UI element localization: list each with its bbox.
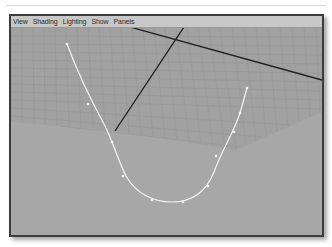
control-point [66,43,69,46]
control-point [215,155,218,158]
control-point [233,131,236,134]
control-point [182,201,185,204]
menu-panels[interactable]: Panels [114,16,135,27]
menu-view[interactable]: View [13,16,28,27]
control-point [122,175,125,178]
modeling-viewport-panel: View Shading Lighting Show Panels [9,14,324,237]
panel-menubar: View Shading Lighting Show Panels [11,16,322,28]
menu-lighting[interactable]: Lighting [63,16,87,27]
control-point [151,199,154,202]
3d-viewport[interactable] [11,28,322,235]
menu-show[interactable]: Show [91,16,108,27]
control-point [246,87,249,90]
control-point [111,141,114,144]
control-point [87,103,90,106]
top-divider [6,5,326,6]
control-point [207,185,210,188]
control-point [239,112,242,115]
menu-shading[interactable]: Shading [33,16,58,27]
